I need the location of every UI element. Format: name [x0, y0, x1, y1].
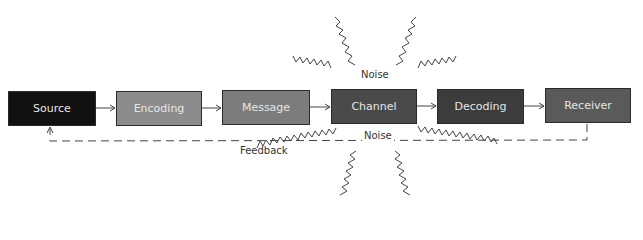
- feedback-label: Feedback: [240, 145, 288, 156]
- node-label: Decoding: [454, 100, 506, 113]
- node-channel: Channel: [331, 89, 417, 124]
- node-encoding: Encoding: [116, 91, 202, 126]
- node-source: Source: [8, 91, 96, 126]
- node-message: Message: [222, 90, 310, 125]
- node-label: Channel: [351, 100, 396, 113]
- node-label: Receiver: [564, 99, 612, 112]
- noise-label-bottom: Noise: [362, 130, 394, 141]
- node-label: Source: [33, 102, 71, 115]
- node-label: Encoding: [134, 102, 185, 115]
- node-receiver: Receiver: [545, 88, 631, 123]
- node-label: Message: [242, 101, 290, 114]
- node-decoding: Decoding: [437, 89, 524, 124]
- noise-label-top: Noise: [361, 69, 389, 80]
